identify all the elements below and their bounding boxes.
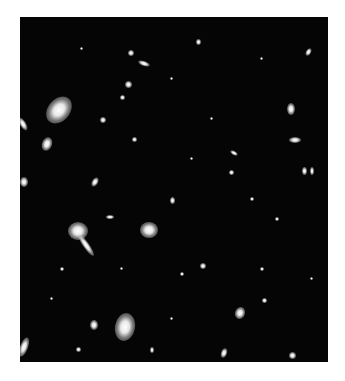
galaxy: [219, 347, 228, 358]
galaxy: [262, 298, 267, 303]
galaxy: [140, 222, 158, 238]
galaxy-field-photo: [20, 17, 328, 362]
galaxy: [170, 317, 173, 320]
galaxy: [233, 306, 247, 321]
galaxy: [41, 91, 77, 128]
galaxy: [132, 137, 137, 142]
galaxy: [90, 176, 100, 188]
galaxy: [100, 117, 106, 123]
galaxy: [90, 320, 98, 330]
galaxy: [120, 267, 123, 270]
galaxy: [20, 116, 29, 131]
galaxy: [120, 95, 125, 100]
galaxy: [275, 217, 279, 221]
galaxy: [230, 149, 239, 156]
galaxy: [113, 311, 138, 342]
galaxy: [76, 347, 81, 352]
galaxy: [150, 347, 154, 353]
galaxy: [200, 263, 206, 269]
galaxy: [40, 136, 54, 153]
galaxy: [190, 157, 193, 160]
galaxy: [250, 197, 254, 201]
galaxy: [128, 50, 134, 56]
galaxy: [80, 47, 83, 50]
galaxy: [20, 336, 31, 358]
galaxy: [302, 167, 307, 175]
galaxy: [289, 137, 301, 143]
galaxy: [196, 39, 201, 45]
galaxy: [260, 267, 264, 271]
galaxy: [60, 267, 64, 271]
galaxy: [180, 272, 184, 276]
galaxy: [210, 117, 213, 120]
galaxy: [170, 197, 175, 204]
galaxy: [20, 177, 28, 187]
galaxy: [229, 170, 234, 175]
galaxy: [106, 215, 114, 219]
galaxy: [138, 59, 151, 68]
galaxy: [289, 352, 296, 359]
galaxy: [304, 47, 312, 56]
galaxy: [310, 277, 313, 280]
galaxy: [310, 167, 314, 175]
galaxy: [170, 77, 173, 80]
galaxy: [260, 57, 263, 60]
galaxy: [50, 297, 53, 300]
galaxy: [125, 81, 132, 88]
galaxy: [287, 103, 295, 115]
